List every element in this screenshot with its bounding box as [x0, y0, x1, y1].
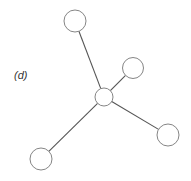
star-graph-diagram [0, 0, 191, 181]
edge-top [79, 31, 101, 88]
node-center [95, 88, 113, 106]
nodes [30, 10, 179, 170]
edge-lower-right [112, 102, 159, 130]
node-top [64, 10, 86, 32]
node-lower-right [157, 124, 179, 146]
node-bottom-left [30, 148, 52, 170]
edge-bottom-left [49, 103, 98, 151]
edge-upper-right [110, 75, 125, 90]
node-upper-right [123, 58, 144, 79]
